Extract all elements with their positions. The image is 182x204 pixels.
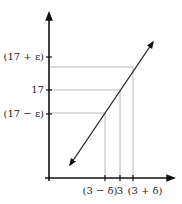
- x-tick-label-mid: 3: [117, 185, 123, 196]
- x-tick-label-right: (3 + δ): [128, 185, 163, 196]
- y-tick-label-mid: 17: [31, 84, 44, 95]
- guide-lines: [49, 67, 133, 178]
- epsilon-delta-diagram: (17 + ε) 17 (17 − ε) (3 − δ) 3 (3 + δ): [0, 0, 182, 204]
- y-tick-label-lower: (17 − ε): [4, 108, 45, 119]
- function-line: [70, 42, 153, 165]
- y-tick-label-upper: (17 + ε): [4, 51, 45, 62]
- x-tick-label-left: (3 − δ): [83, 185, 118, 196]
